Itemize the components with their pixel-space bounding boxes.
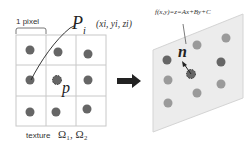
center-p-label: p	[62, 80, 70, 96]
center-point-p	[53, 76, 62, 85]
pixel-label: 1 pixel	[16, 17, 39, 26]
texture-label: texture	[26, 131, 50, 140]
normal-label: n	[178, 44, 187, 60]
pi-sub: i	[83, 25, 86, 36]
pi-label: Pi	[72, 14, 86, 36]
right-arrow-icon	[117, 74, 141, 88]
plane-equation: f(x,y)=z=Ax+By+C	[155, 8, 211, 16]
pi-coords: (xi, yi, zi)	[96, 19, 132, 29]
plane	[153, 14, 243, 132]
omega-label: Ω₁, Ω₂	[58, 128, 88, 140]
pi-main: P	[72, 13, 83, 33]
pixel-bracket	[16, 28, 46, 34]
